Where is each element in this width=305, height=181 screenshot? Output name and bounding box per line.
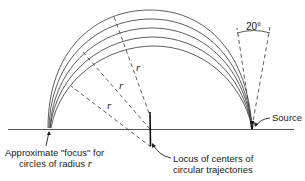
radius-label-1: r: [136, 62, 140, 73]
source-leader: [256, 118, 270, 126]
arrowheads: [47, 122, 258, 148]
locus-label-line1: Locus of centers of: [173, 153, 253, 164]
focus-label-line2: circles of radius r: [19, 158, 92, 169]
locus-leader: [153, 145, 171, 158]
focus-label-text: circles of radius: [19, 158, 88, 169]
radius-label-3: r: [107, 100, 111, 111]
focus-label-var: r: [88, 158, 92, 169]
radius-lines: [71, 14, 151, 147]
focus-label-line1: Approximate "focus" for: [5, 147, 104, 158]
angle-label: 20°: [246, 21, 261, 32]
locus-label-line2: circular trajectories: [173, 164, 253, 175]
trajectory-arc-3: [50, 28, 252, 128]
trajectory-arcs: [48, 10, 252, 128]
radius-line-1: [113, 14, 149, 113]
locus-of-centers: [150, 112, 151, 146]
source-label: Source: [272, 112, 302, 123]
radius-label-2: r: [119, 80, 123, 91]
